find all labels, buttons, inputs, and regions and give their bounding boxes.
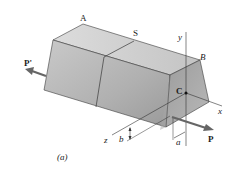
force-p-arrowhead <box>203 124 214 131</box>
dim-b-arrowhead-up <box>129 127 132 131</box>
label-force-p: P <box>208 134 214 144</box>
label-s: S <box>133 28 138 38</box>
label-c: C <box>176 86 183 96</box>
dim-b-arrowhead-down <box>129 136 132 140</box>
prism-diagram: A S y B C x z b a P P' (a) <box>0 0 236 170</box>
label-b-point: B <box>200 52 206 62</box>
figure-caption: (a) <box>57 152 68 162</box>
label-dim-b: b <box>119 134 124 144</box>
label-x-axis: x <box>217 106 222 116</box>
force-p-shaft <box>172 117 206 128</box>
force-p-prime-shaft <box>32 71 46 76</box>
label-y-axis: y <box>177 32 182 42</box>
label-z-axis: z <box>103 135 108 145</box>
force-p-prime-arrowhead <box>25 67 34 75</box>
label-dim-a: a <box>176 137 181 147</box>
label-a-point: A <box>80 13 87 23</box>
centroid-point <box>185 92 188 95</box>
label-force-p-prime: P' <box>24 58 32 68</box>
